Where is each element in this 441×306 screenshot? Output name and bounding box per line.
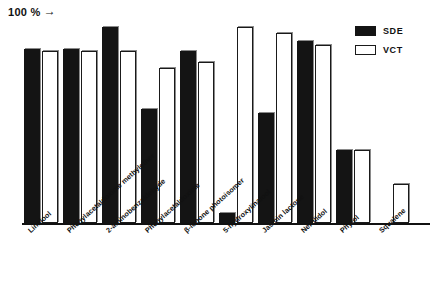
bar-vct (354, 150, 370, 223)
legend-label-vct: VCT (383, 45, 403, 55)
bar-chart: 100 % → LinaloolPhenylacetaldoxime methy… (0, 0, 441, 306)
legend-item-vct: VCT (355, 45, 433, 55)
bar-sde (24, 49, 40, 223)
legend-item-sde: SDE (355, 26, 433, 36)
bar-vct (42, 51, 58, 223)
bar-group (297, 14, 331, 223)
legend-swatch-vct-icon (355, 45, 376, 55)
bar-vct (315, 45, 331, 223)
bar-vct (237, 27, 253, 223)
legend-swatch-sde-icon (355, 26, 376, 36)
bar-vct (81, 51, 97, 223)
legend-label-sde: SDE (383, 26, 403, 36)
legend: SDE VCT (355, 26, 433, 64)
bar-vct (198, 62, 214, 223)
bar-group (63, 14, 97, 223)
bar-sde (336, 150, 352, 223)
bar-group (24, 14, 58, 223)
bar-sde (63, 49, 79, 223)
bar-sde (258, 113, 274, 223)
bar-vct (120, 51, 136, 223)
bar-vct (276, 33, 292, 223)
